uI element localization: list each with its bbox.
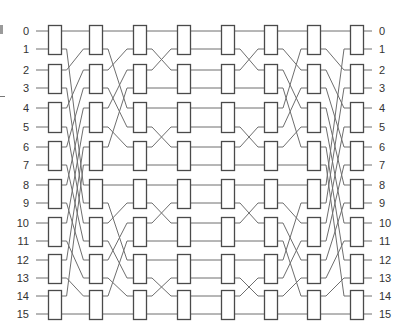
- output-label: 1: [379, 43, 385, 55]
- link-wire: [234, 203, 264, 223]
- output-label: 2: [379, 64, 385, 76]
- switch-box: [90, 255, 103, 284]
- switch-box: [49, 26, 62, 55]
- switch-box: [90, 218, 103, 247]
- link-wire: [102, 88, 133, 147]
- switch-box: [265, 291, 278, 320]
- switch-box: [90, 142, 103, 171]
- output-label: 6: [379, 141, 385, 153]
- link-wire: [277, 203, 307, 260]
- link-wire: [102, 49, 133, 108]
- switch-box: [222, 291, 235, 320]
- switch-box: [265, 65, 278, 94]
- benes-network-diagram: [0, 0, 403, 331]
- switch-box: [178, 255, 191, 284]
- switch-box: [351, 180, 364, 209]
- switch-box: [265, 142, 278, 171]
- switch-box: [90, 180, 103, 209]
- switch-box: [265, 255, 278, 284]
- switch-box: [308, 26, 321, 55]
- input-label: 7: [7, 159, 29, 171]
- switch-box: [351, 65, 364, 94]
- input-label: 12: [7, 254, 29, 266]
- link-wire: [277, 241, 307, 296]
- link-wire: [234, 49, 264, 70]
- output-label: 5: [379, 121, 385, 133]
- switch-box: [222, 65, 235, 94]
- link-wire: [102, 203, 133, 260]
- link-wire: [61, 278, 89, 296]
- wires: [36, 31, 372, 314]
- switch-box: [265, 180, 278, 209]
- link-wire: [102, 127, 133, 147]
- link-wire: [320, 278, 350, 296]
- link-wire: [320, 127, 350, 223]
- output-label: 3: [379, 82, 385, 94]
- link-wire: [102, 278, 133, 296]
- switch-box: [222, 180, 235, 209]
- link-wire: [102, 241, 133, 296]
- input-label: 14: [7, 290, 29, 302]
- switch-box: [222, 255, 235, 284]
- switch-box: [308, 180, 321, 209]
- input-label: 2: [7, 64, 29, 76]
- switch-box: [308, 142, 321, 171]
- output-label: 4: [379, 102, 385, 114]
- switch-box: [134, 255, 147, 284]
- link-wire: [61, 70, 89, 108]
- input-label: 5: [7, 121, 29, 133]
- switch-box: [49, 218, 62, 247]
- switch-box: [134, 26, 147, 55]
- input-label: 9: [7, 197, 29, 209]
- link-wire: [146, 49, 177, 70]
- output-label: 0: [379, 25, 385, 37]
- switch-box: [178, 142, 191, 171]
- link-wire: [277, 203, 307, 223]
- switch-box: [134, 142, 147, 171]
- switch-box: [308, 218, 321, 247]
- switch-box: [178, 180, 191, 209]
- switch-box: [134, 218, 147, 247]
- link-wire: [102, 49, 133, 70]
- link-wire: [61, 88, 89, 147]
- output-label: 11: [379, 235, 390, 247]
- switch-box: [49, 180, 62, 209]
- switch-box: [178, 103, 191, 133]
- switch-box: [351, 291, 364, 320]
- switch-box: [265, 103, 278, 133]
- input-label: 15: [7, 308, 29, 320]
- switch-box: [351, 218, 364, 247]
- input-label: 0: [7, 25, 29, 37]
- switch-box: [351, 103, 364, 133]
- switch-box: [308, 291, 321, 320]
- link-wire: [320, 49, 350, 70]
- switch-box: [351, 142, 364, 171]
- link-wire: [277, 88, 307, 147]
- link-wire: [102, 203, 133, 223]
- switch-box: [49, 142, 62, 171]
- link-wire: [61, 49, 89, 70]
- link-wire: [320, 88, 350, 203]
- switch-box: [308, 255, 321, 284]
- link-wire: [61, 127, 89, 223]
- output-label: 15: [379, 308, 391, 320]
- link-wire: [277, 70, 307, 108]
- input-label: 4: [7, 102, 29, 114]
- switch-box: [49, 103, 62, 133]
- switch-box: [134, 180, 147, 209]
- input-label: 13: [7, 272, 29, 284]
- output-label: 9: [379, 197, 385, 209]
- switch-box: [178, 65, 191, 94]
- switch-box: [90, 26, 103, 55]
- output-label: 7: [379, 159, 385, 171]
- input-label: 10: [7, 217, 29, 229]
- switch-box: [351, 26, 364, 55]
- switch-box: [265, 218, 278, 247]
- switch-box: [308, 65, 321, 94]
- switch-box: [49, 65, 62, 94]
- input-label: 8: [7, 179, 29, 191]
- link-wire: [146, 203, 177, 223]
- switch-box: [265, 26, 278, 55]
- switch-box: [90, 103, 103, 133]
- link-wire: [320, 203, 350, 260]
